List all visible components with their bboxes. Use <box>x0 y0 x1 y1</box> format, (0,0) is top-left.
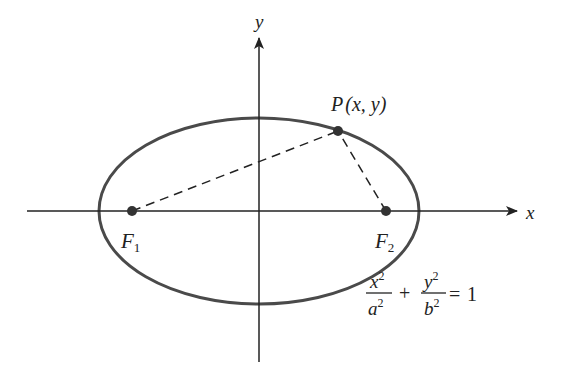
equation-term2-denominator: b2 <box>424 296 440 319</box>
equation-rhs: 1 <box>467 283 477 305</box>
equation-term1-numerator: x2 <box>369 269 384 292</box>
focus-f1-label: F1 <box>120 229 140 255</box>
equation-term2-numerator: y2 <box>422 269 438 292</box>
point-p-label: P(x, y) <box>330 93 387 116</box>
dashed-line-f1-p <box>132 131 338 211</box>
x-axis-label: x <box>525 202 535 223</box>
focus-f2-label: F2 <box>374 229 394 255</box>
point-p <box>333 126 343 136</box>
equation-term1-denominator: a2 <box>368 296 384 319</box>
y-axis-label: y <box>253 11 264 32</box>
ellipse-diagram: x y F1 F2 P(x, y) x2 a2 + y2 b2 = 1 <box>0 0 561 371</box>
equation-equals: = <box>449 283 460 305</box>
ellipse-equation: x2 a2 + y2 b2 = 1 <box>366 269 477 319</box>
focus-f2-point <box>381 206 391 216</box>
focus-f1-point <box>127 206 137 216</box>
equation-plus: + <box>399 282 410 304</box>
dashed-line-f2-p <box>338 131 386 211</box>
